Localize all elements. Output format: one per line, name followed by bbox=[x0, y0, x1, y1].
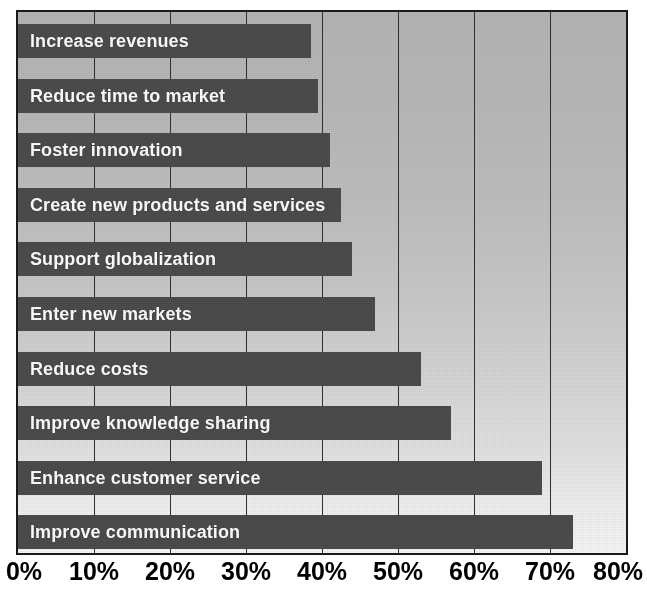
bar-row: Reduce costs bbox=[18, 352, 626, 386]
x-axis-tick-labels: 0%10%20%30%40%50%60%70%80% bbox=[0, 557, 647, 597]
bar-label: Reduce time to market bbox=[30, 79, 225, 113]
bar-row: Improve communication bbox=[18, 515, 626, 549]
bar-row: Foster innovation bbox=[18, 133, 626, 167]
bar-label: Enter new markets bbox=[30, 297, 192, 331]
x-tick-label: 0% bbox=[6, 557, 42, 586]
bar-label: Improve knowledge sharing bbox=[30, 406, 271, 440]
x-tick-label: 10% bbox=[69, 557, 119, 586]
bar-label: Reduce costs bbox=[30, 352, 148, 386]
bar-row: Support globalization bbox=[18, 242, 626, 276]
x-tick-label: 20% bbox=[145, 557, 195, 586]
x-tick-label: 80% bbox=[593, 557, 643, 586]
bar-label: Increase revenues bbox=[30, 24, 189, 58]
bar-row: Reduce time to market bbox=[18, 79, 626, 113]
bar-label: Enhance customer service bbox=[30, 461, 261, 495]
x-tick-label: 30% bbox=[221, 557, 271, 586]
bar-row: Improve knowledge sharing bbox=[18, 406, 626, 440]
x-tick-label: 40% bbox=[297, 557, 347, 586]
bar-label: Improve communication bbox=[30, 515, 240, 549]
x-tick-label: 50% bbox=[373, 557, 423, 586]
plot-area: Increase revenuesReduce time to marketFo… bbox=[16, 10, 628, 555]
bar-label: Support globalization bbox=[30, 242, 216, 276]
bar-label: Foster innovation bbox=[30, 133, 183, 167]
bar-row: Create new products and services bbox=[18, 188, 626, 222]
bar-row: Enter new markets bbox=[18, 297, 626, 331]
bar-chart: Increase revenuesReduce time to marketFo… bbox=[0, 0, 647, 597]
x-tick-label: 70% bbox=[525, 557, 575, 586]
gridline-80 bbox=[626, 12, 627, 553]
bar-row: Enhance customer service bbox=[18, 461, 626, 495]
bar-label: Create new products and services bbox=[30, 188, 325, 222]
x-tick-label: 60% bbox=[449, 557, 499, 586]
bar-row: Increase revenues bbox=[18, 24, 626, 58]
